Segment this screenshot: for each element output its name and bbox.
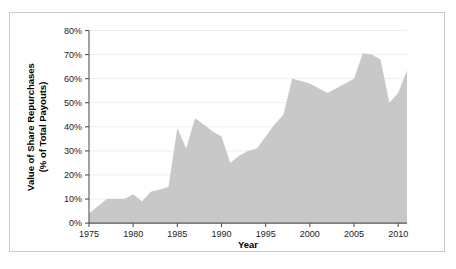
y-axis-ticks — [85, 31, 89, 224]
y-tick-label-70%: 70% — [64, 50, 82, 60]
y-tick-label-10%: 10% — [64, 194, 82, 204]
figure-frame: 0%10%20%30%40%50%60%70%80% 1975198019851… — [9, 12, 445, 252]
x-axis-tick-labels: 19751980198519901995200020052010 — [79, 229, 408, 239]
x-axis-title: Year — [238, 239, 258, 250]
y-tick-label-30%: 30% — [64, 146, 82, 156]
x-tick-label-1980: 1980 — [123, 229, 143, 239]
x-tick-label-1990: 1990 — [211, 229, 231, 239]
x-tick-label-1975: 1975 — [79, 229, 99, 239]
y-tick-label-60%: 60% — [64, 74, 82, 84]
y-axis-title-line2: (% of Total Payouts) — [37, 82, 48, 173]
y-tick-label-50%: 50% — [64, 98, 82, 108]
chart-area: 0%10%20%30%40%50%60%70%80% 1975198019851… — [10, 13, 446, 253]
x-tick-label-1995: 1995 — [256, 229, 276, 239]
x-tick-label-2010: 2010 — [388, 229, 408, 239]
y-tick-label-40%: 40% — [64, 122, 82, 132]
x-axis-ticks — [89, 223, 398, 227]
y-axis-tick-labels: 0%10%20%30%40%50%60%70%80% — [64, 26, 82, 229]
y-tick-label-80%: 80% — [64, 26, 82, 36]
area-chart: 0%10%20%30%40%50%60%70%80% 1975198019851… — [10, 13, 446, 253]
y-tick-label-20%: 20% — [64, 170, 82, 180]
x-tick-label-2000: 2000 — [300, 229, 320, 239]
x-tick-label-2005: 2005 — [344, 229, 364, 239]
y-axis-title-line1: Value of Share Repurchases — [25, 63, 36, 191]
y-tick-label-0%: 0% — [69, 218, 82, 228]
x-tick-label-1985: 1985 — [167, 229, 187, 239]
